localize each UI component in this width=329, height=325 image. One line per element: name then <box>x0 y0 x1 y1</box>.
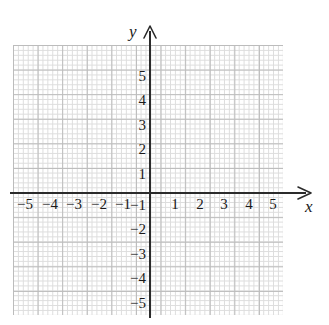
x-tick-label: −2 <box>88 197 110 213</box>
coordinate-plane: x y −5−4−3−2−112345 54321−1−2−3−4−5 <box>0 0 329 325</box>
x-tick-label: −3 <box>63 197 85 213</box>
y-tick-label: −2 <box>122 222 146 238</box>
grid <box>13 45 283 315</box>
y-axis-arrow-icon <box>142 24 158 40</box>
y-tick-label: 2 <box>122 142 146 158</box>
x-tick-label: 3 <box>213 197 235 213</box>
y-tick-label: 5 <box>122 69 146 85</box>
x-tick-label: 5 <box>262 197 284 213</box>
y-axis-label: y <box>129 23 137 40</box>
y-axis-line <box>149 31 151 318</box>
x-tick-label: 2 <box>189 197 211 213</box>
x-tick-label: 4 <box>238 197 260 213</box>
y-tick-label: −5 <box>122 296 146 312</box>
y-tick-label: 1 <box>122 167 146 183</box>
x-axis-label: x <box>305 198 313 215</box>
x-tick-label: −5 <box>14 197 36 213</box>
x-tick-label: −4 <box>39 197 61 213</box>
x-axis-line <box>10 192 306 194</box>
y-tick-label: −1 <box>122 198 146 214</box>
y-tick-label: −3 <box>122 247 146 263</box>
x-tick-label: 1 <box>164 197 186 213</box>
y-tick-label: −4 <box>122 271 146 287</box>
y-tick-label: 4 <box>122 93 146 109</box>
y-tick-label: 3 <box>122 118 146 134</box>
